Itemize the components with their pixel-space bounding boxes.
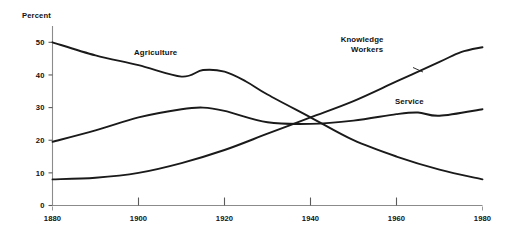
series-label-agriculture: Agriculture	[134, 48, 178, 57]
x-tick-label: 1920	[216, 214, 233, 223]
series-label-service: Service	[395, 97, 424, 106]
series-line-service	[53, 107, 483, 141]
series-line-agriculture	[53, 42, 483, 179]
x-tick-label: 1880	[44, 214, 61, 223]
x-tick-label: 1900	[130, 214, 147, 223]
x-tick-label: 1960	[388, 214, 405, 223]
y-axis-title: Percent	[22, 11, 51, 20]
series-lines	[53, 42, 483, 179]
y-tick-label: 20	[36, 136, 45, 145]
y-tick-label: 0	[40, 201, 44, 210]
plot-axes	[53, 26, 483, 206]
x-tick-label: 1940	[302, 214, 319, 223]
y-tick-label: 40	[36, 71, 45, 80]
chart-container: 01020304050 188019001920194019601980 Per…	[0, 0, 509, 248]
series-label-knowledge-workers: KnowledgeWorkers	[341, 35, 384, 54]
y-tick-label: 50	[36, 38, 45, 47]
series-annotations: AgricultureKnowledgeWorkersService	[134, 35, 424, 106]
x-axis-ticks: 188019001920194019601980	[44, 198, 491, 223]
y-axis-ticks: 01020304050	[36, 38, 53, 210]
line-chart: 01020304050 188019001920194019601980 Per…	[0, 0, 509, 248]
y-tick-label: 30	[36, 103, 45, 112]
x-tick-label: 1980	[474, 214, 491, 223]
y-tick-label: 10	[36, 169, 45, 178]
